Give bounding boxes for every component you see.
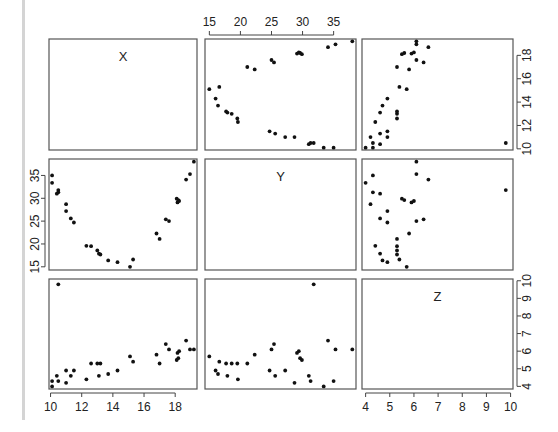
data-point <box>270 348 274 352</box>
tick-label: 7 <box>520 330 534 337</box>
tick-label: 10 <box>44 400 58 414</box>
data-point <box>373 244 377 248</box>
tick-label: 35 <box>327 15 341 29</box>
data-point <box>350 39 354 43</box>
data-point <box>395 117 399 121</box>
data-point <box>217 360 221 364</box>
diagonal-label-x: X <box>119 49 128 64</box>
data-point <box>69 217 73 221</box>
data-point <box>116 369 120 373</box>
tick-label: 20 <box>28 237 42 251</box>
data-point <box>230 112 234 116</box>
data-point <box>50 181 54 185</box>
panel-frame-r0-c1 <box>205 39 356 150</box>
data-point <box>309 379 313 383</box>
data-point <box>155 232 159 236</box>
tick-label: 10 <box>520 274 534 288</box>
diagonal-label-y: Y <box>276 169 285 184</box>
data-point <box>55 192 59 196</box>
data-point <box>427 178 431 182</box>
panel-frame-r2-c1 <box>205 279 356 389</box>
data-point <box>415 172 419 176</box>
data-point <box>214 369 218 373</box>
data-point <box>89 362 93 366</box>
tick-label: 7 <box>435 400 442 414</box>
data-point <box>334 42 338 46</box>
data-point <box>50 385 54 389</box>
data-point <box>415 160 419 164</box>
panel-frame-r2-c0 <box>49 279 197 389</box>
data-point <box>307 142 311 146</box>
tick-label: 20 <box>234 15 248 29</box>
data-point <box>207 87 211 91</box>
data-point <box>307 374 311 378</box>
data-point <box>99 253 103 257</box>
data-point <box>407 232 411 236</box>
data-point <box>50 379 54 383</box>
data-point <box>164 342 168 346</box>
tick-label: 15 <box>203 15 217 29</box>
data-point <box>85 244 89 248</box>
tick-label: 12 <box>75 400 89 414</box>
data-point <box>268 369 272 373</box>
tick-label: 8 <box>520 312 534 319</box>
data-point <box>128 355 132 359</box>
data-point <box>272 342 276 346</box>
data-point <box>268 129 272 133</box>
data-point <box>158 237 162 241</box>
data-point <box>192 348 196 352</box>
data-point <box>364 146 368 150</box>
data-point <box>364 181 368 185</box>
tick-label: 18 <box>520 48 534 62</box>
tick-label: 25 <box>28 214 42 228</box>
data-point <box>412 199 416 203</box>
tick-label: 10 <box>504 400 518 414</box>
data-point <box>177 349 181 353</box>
panel-frame-r0-c2 <box>362 39 513 150</box>
data-point <box>207 355 211 359</box>
data-point <box>245 362 249 366</box>
data-point <box>326 339 330 343</box>
data-point <box>167 348 171 352</box>
data-point <box>381 104 385 108</box>
data-point <box>293 135 297 139</box>
data-point <box>326 45 330 49</box>
data-point <box>415 39 419 43</box>
tick-label: 30 <box>296 15 310 29</box>
data-point <box>381 259 385 263</box>
data-point <box>398 85 402 89</box>
data-point <box>332 146 336 150</box>
tick-label: 16 <box>137 400 151 414</box>
data-point <box>50 174 54 178</box>
data-point <box>504 141 508 145</box>
data-point <box>395 237 399 241</box>
data-point <box>236 377 240 381</box>
data-point <box>64 209 68 213</box>
data-point <box>415 58 419 62</box>
data-point <box>297 349 301 353</box>
data-point <box>214 97 218 101</box>
data-point <box>188 172 192 176</box>
tick-label: 35 <box>28 168 42 182</box>
data-point <box>226 374 230 378</box>
data-point <box>72 221 76 225</box>
data-point <box>235 117 239 121</box>
data-point <box>297 51 301 55</box>
data-point <box>273 374 277 378</box>
data-point <box>398 258 402 262</box>
tick-label: 15 <box>28 260 42 274</box>
data-point <box>412 51 416 55</box>
data-point <box>386 221 390 225</box>
data-point <box>332 379 336 383</box>
data-point <box>56 282 60 286</box>
panel-frame-r1-c0 <box>49 159 197 270</box>
data-point <box>504 188 508 192</box>
data-point <box>395 65 399 69</box>
data-point <box>378 252 382 256</box>
data-point <box>184 178 188 182</box>
data-point <box>395 110 399 114</box>
data-point <box>155 353 159 357</box>
data-point <box>224 110 228 114</box>
tick-label: 9 <box>483 400 490 414</box>
data-point <box>369 202 373 206</box>
